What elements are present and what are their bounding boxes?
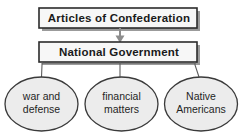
branch-label-line2: defense bbox=[5, 103, 78, 116]
branch-label-line2: Americans bbox=[164, 103, 238, 116]
articles-of-confederation-label: Articles of Confederation bbox=[40, 13, 198, 25]
branch-label-line2: matters bbox=[85, 103, 158, 116]
branch-label-line1: war and bbox=[5, 90, 78, 103]
branch-label-war-and-defense: war and defense bbox=[5, 90, 78, 115]
branch-label-financial-matters: financial matters bbox=[85, 90, 158, 115]
national-government-label: National Government bbox=[40, 47, 198, 59]
branch-label-native-americans: Native Americans bbox=[164, 90, 238, 115]
branch-label-line1: financial bbox=[85, 90, 158, 103]
branch-label-line1: Native bbox=[164, 90, 238, 103]
diagram-container: Articles of Confederation National Gover… bbox=[0, 0, 240, 133]
connector-left bbox=[42, 62, 43, 77]
